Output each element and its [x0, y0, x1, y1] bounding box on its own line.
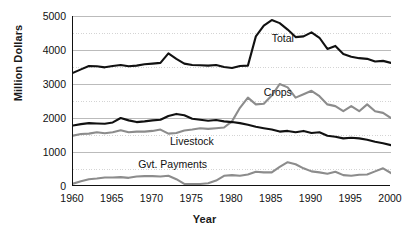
series-label-livestock: Livestock	[170, 136, 214, 147]
series-lines	[73, 20, 391, 184]
x-tick-label: 2000	[370, 193, 409, 203]
x-axis-title: Year	[0, 213, 409, 225]
y-tick-label: 4000	[20, 45, 66, 55]
series-line-total	[73, 20, 391, 73]
y-tick-label: 0	[20, 181, 66, 191]
y-tick-label: 2000	[20, 113, 66, 123]
x-tick-label: 1985	[251, 193, 291, 203]
y-tick-label: 5000	[20, 11, 66, 21]
x-tick-label: 1990	[291, 193, 331, 203]
gridlines	[73, 16, 391, 186]
x-tick-label: 1960	[52, 193, 92, 203]
x-tick-label: 1965	[92, 193, 132, 203]
x-tick-label: 1970	[132, 193, 172, 203]
x-tick-label: 1975	[171, 193, 211, 203]
series-label-gvt-payments: Gvt. Payments	[138, 159, 207, 170]
x-tick-label: 1980	[211, 193, 251, 203]
chart-figure: Million Dollars Year 0100020003000400050…	[0, 0, 409, 236]
y-tick-label: 3000	[20, 79, 66, 89]
plot-area: TotalCropsLivestockGvt. Payments	[72, 16, 390, 186]
series-label-total: Total	[272, 33, 294, 44]
y-tick-label: 1000	[20, 147, 66, 157]
series-line-gvt-payments	[73, 162, 391, 184]
series-label-crops: Crops	[264, 87, 292, 98]
series-line-crops	[73, 84, 391, 136]
x-tick-label: 1995	[330, 193, 370, 203]
chart-svg	[73, 16, 391, 186]
